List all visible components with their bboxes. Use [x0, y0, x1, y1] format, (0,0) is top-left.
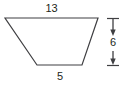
top-base-label: 13	[45, 2, 57, 14]
height-label: 6	[110, 36, 116, 48]
geometry-figure: 13 5 6	[0, 0, 125, 88]
bottom-base-label: 5	[57, 70, 63, 82]
trapezoid-diagram-svg: 13 5 6	[0, 0, 125, 88]
